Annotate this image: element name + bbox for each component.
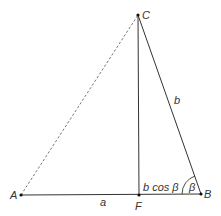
triangle-diagram: C A B F a b b cos β β xyxy=(0,0,221,216)
point-B xyxy=(199,192,202,195)
segment-AB xyxy=(21,194,201,195)
label-F: F xyxy=(135,200,143,212)
label-A: A xyxy=(9,189,17,201)
label-C: C xyxy=(142,9,150,21)
label-projection: b cos β xyxy=(143,181,179,193)
altitude-CF xyxy=(138,15,139,195)
label-B: B xyxy=(204,188,211,200)
segment-AC-dashed xyxy=(21,15,138,195)
point-C xyxy=(136,13,139,16)
label-side-b: b xyxy=(174,94,180,106)
segment-CB xyxy=(138,15,201,194)
point-F xyxy=(137,193,140,196)
label-angle-beta: β xyxy=(188,181,196,193)
label-side-a: a xyxy=(100,196,106,208)
point-A xyxy=(19,193,22,196)
